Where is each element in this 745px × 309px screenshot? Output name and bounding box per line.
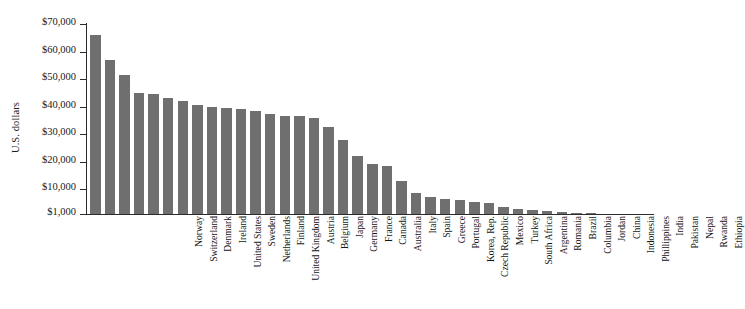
bar: [542, 211, 552, 214]
bar: [323, 127, 333, 214]
bar: [192, 105, 202, 214]
bar: [396, 181, 406, 214]
bar: [586, 213, 596, 214]
bar: [178, 101, 188, 214]
x-axis-label: India: [673, 216, 686, 308]
bar: [513, 209, 523, 215]
x-axis-label: Pakistan: [688, 216, 701, 308]
bar: [105, 60, 115, 214]
x-axis-label: Korea, Rep.: [484, 216, 497, 308]
y-axis-tick-label: $10,000: [0, 181, 76, 192]
y-axis-tick-mark: [80, 134, 86, 135]
x-axis-label: Ireland: [236, 216, 249, 308]
x-axis-label: Greece: [455, 216, 468, 308]
x-axis-label: Czech Republic: [498, 216, 511, 308]
x-axis-label: Brazil: [586, 216, 599, 308]
x-axis-label: Indonesia: [644, 216, 657, 308]
y-axis-tick-label: $70,000: [0, 16, 76, 27]
bar: [294, 116, 304, 214]
x-axis-label: Columbia: [601, 216, 614, 308]
x-axis-label: Spain: [440, 216, 453, 308]
y-axis-tick-mark: [80, 162, 86, 163]
bar: [411, 193, 421, 214]
x-axis-label: Jordan: [615, 216, 628, 308]
bar: [280, 116, 290, 214]
y-axis-tick-label: $30,000: [0, 126, 76, 137]
x-axis-label: Argentina: [557, 216, 570, 308]
bar: [484, 203, 494, 214]
x-axis-label: Austria: [324, 216, 337, 308]
x-axis-label: Japan: [353, 216, 366, 308]
bar: [425, 197, 435, 214]
x-axis-label: Australia: [411, 216, 424, 308]
x-axis-label: Turkey: [528, 216, 541, 308]
y-axis-tick-mark: [80, 79, 86, 80]
y-axis-tick: $1,000: [0, 214, 685, 215]
x-axis-label: Mexico: [513, 216, 526, 308]
y-axis-tick-mark: [80, 214, 86, 215]
bar: [207, 107, 217, 214]
x-axis-label: South Africa: [542, 216, 555, 308]
bar: [498, 207, 508, 214]
x-axis-label: Italy: [426, 216, 439, 308]
x-axis-label: Netherlands: [280, 216, 293, 308]
bar: [90, 35, 100, 214]
x-axis-label: Germany: [367, 216, 380, 308]
x-axis-label: Phillippines: [659, 216, 672, 308]
x-axis-label: Ethiopia: [732, 216, 745, 308]
x-axis-label: Finland: [294, 216, 307, 308]
bar: [309, 118, 319, 214]
bar: [455, 200, 465, 214]
bar: [338, 140, 348, 214]
bar: [265, 114, 275, 215]
plot-area: [88, 24, 642, 214]
bar: [382, 166, 392, 214]
x-axis-label: Norway: [192, 216, 205, 308]
y-axis-tick-mark: [80, 52, 86, 53]
x-axis-label: Rwanda: [717, 216, 730, 308]
x-axis-label: Sweden: [265, 216, 278, 308]
y-axis-tick-label: $20,000: [0, 154, 76, 165]
y-axis-tick-mark: [80, 189, 86, 190]
x-axis-label: Portugal: [469, 216, 482, 308]
x-axis-label: Denmark: [221, 216, 234, 308]
bar: [527, 210, 537, 214]
x-axis-label: Canada: [396, 216, 409, 308]
bar: [221, 108, 231, 214]
bar: [557, 212, 567, 214]
bar: [148, 94, 158, 214]
x-axis-labels: NorwaySwitzerlandDenmarkIrelandUnited St…: [88, 216, 642, 308]
y-axis-tick-mark: [80, 24, 86, 25]
y-axis-tick-label: $60,000: [0, 44, 76, 55]
y-axis-tick-label: $40,000: [0, 99, 76, 110]
bar: [469, 202, 479, 214]
x-axis-label: Nepal: [703, 216, 716, 308]
x-axis-label: Belgium: [338, 216, 351, 308]
bar: [163, 98, 173, 214]
bar: [250, 111, 260, 214]
x-axis-label: China: [630, 216, 643, 308]
bar: [134, 93, 144, 214]
x-axis-label: Switzerland: [207, 216, 220, 308]
y-axis-tick-mark: [80, 107, 86, 108]
x-axis-label: United States: [251, 216, 264, 308]
bar: [236, 109, 246, 214]
bar: [367, 164, 377, 214]
bar: [440, 199, 450, 214]
x-axis-label: Romania: [571, 216, 584, 308]
bar: [571, 213, 581, 214]
x-axis-label: France: [382, 216, 395, 308]
x-axis-label: United Kingdom: [309, 216, 322, 308]
y-axis-tick-label: $50,000: [0, 71, 76, 82]
y-axis-tick-label: $1,000: [0, 206, 76, 217]
bar: [352, 156, 362, 214]
bar: [119, 75, 129, 214]
